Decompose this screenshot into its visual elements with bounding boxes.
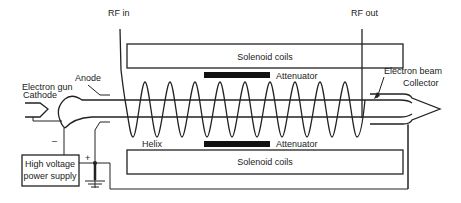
plus-sign: + [85,153,90,163]
cathode-electrode [58,99,65,128]
anode-upper [88,85,100,95]
collector-label: Collector [403,78,439,88]
cathode-label: Cathode [23,90,57,100]
helix [125,82,365,137]
helix-label: Helix [142,139,163,149]
power-supply: High voltage power supply [22,155,79,186]
rf-in-lead [120,29,125,100]
rf-in-label: RF in [108,8,130,18]
solenoid-bottom-label: Solenoid coils [237,157,293,167]
anode-lower-lead [95,122,110,188]
power-supply-line2: power supply [23,171,77,181]
anode-label: Anode [75,73,101,83]
solenoid-coils-bottom: Solenoid coils [127,150,403,174]
attenuator-top-label: Attenuator [276,71,318,81]
solenoid-top-label: Solenoid coils [237,52,293,62]
collector [370,94,440,189]
rf-out-label: RF out [351,8,379,18]
minus-sign: – [52,136,57,146]
twt-diagram: Solenoid coils Solenoid coils Attenuator… [0,0,461,203]
electron-beam-label: Electron beam [384,66,442,76]
attenuator-bottom: Attenuator [204,139,318,149]
power-supply-line1: High voltage [25,159,75,169]
attenuator-bottom-label: Attenuator [276,139,318,149]
cathode-heater [25,103,48,117]
attenuator-top: Attenuator [204,71,318,81]
